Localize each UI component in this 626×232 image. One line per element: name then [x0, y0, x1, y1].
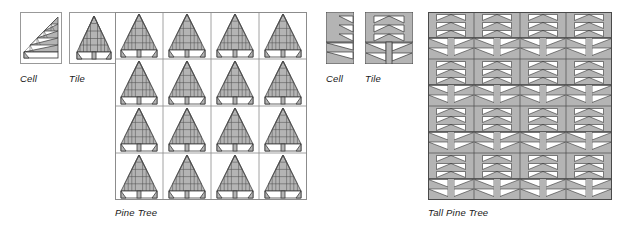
tall-pine-tree-pattern — [428, 12, 612, 200]
tall-pine-tree-cell-svg — [326, 12, 354, 64]
tall-pine-tree-tile-svg — [365, 12, 413, 64]
pine-tree-pattern-svg — [115, 12, 307, 200]
figure-root: Cell — [0, 0, 626, 232]
tall-pine-tree-tile-label: Tile — [365, 73, 381, 84]
tall-pine-tree-caption: Tall Pine Tree — [428, 207, 488, 218]
pine-tree-caption: Pine Tree — [115, 207, 157, 218]
pine-tree-cell-svg — [20, 12, 62, 64]
pine-tree-tile-label: Tile — [69, 73, 85, 84]
tall-pine-tree-cell-label: Cell — [326, 73, 343, 84]
pine-tree-cell-label: Cell — [20, 73, 37, 84]
tall-pine-tree-cell-swatch — [326, 12, 354, 64]
pine-tree-tile-swatch — [69, 12, 119, 64]
pine-tree-pattern — [115, 12, 307, 200]
pine-tree-cell-swatch — [20, 12, 62, 64]
tall-pine-tree-tile-swatch — [365, 12, 413, 64]
pine-tree-tile-svg — [69, 12, 119, 64]
tall-pine-tree-pattern-svg — [428, 12, 612, 200]
